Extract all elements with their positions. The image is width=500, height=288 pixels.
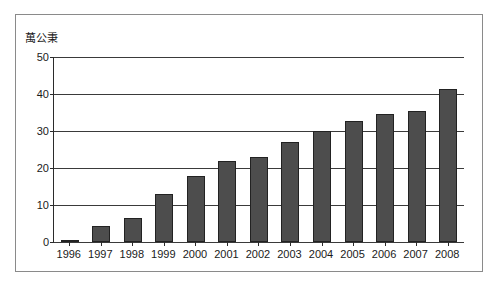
y-axis-tick-label: 40 [37,89,49,100]
y-axis-tick-label: 20 [37,163,49,174]
bar-slot [338,57,370,242]
x-axis-tick-label: 2007 [400,248,432,260]
bar-slot [432,57,464,242]
x-axis-tick-mark [322,242,323,246]
bar[interactable] [92,226,110,242]
bar[interactable] [439,89,457,242]
chart-frame: 萬公秉 01020304050 199619971998199920002001… [15,14,483,272]
y-axis-tick-label: 0 [43,237,49,248]
bar-slot [149,57,181,242]
bar[interactable] [218,161,236,242]
x-axis-tick-mark [416,242,417,246]
bar-slot [369,57,401,242]
x-axis-tick-label: 2006 [368,248,400,260]
bar-slot [243,57,275,242]
bar[interactable] [313,131,331,242]
bar[interactable] [124,218,142,242]
bar[interactable] [281,142,299,242]
x-axis-tick-label: 1997 [85,248,117,260]
x-axis-tick-mark [353,242,354,246]
x-axis-tick-mark [385,242,386,246]
x-axis-tick-label: 2002 [242,248,274,260]
bar-slot [401,57,433,242]
bar[interactable] [187,176,205,242]
y-axis-tick-label: 50 [37,52,49,63]
x-axis-tick-label: 2001 [211,248,243,260]
x-axis-tick-label: 1999 [148,248,180,260]
x-axis-tick-mark [164,242,165,246]
bars-layer [54,57,464,242]
bar[interactable] [250,157,268,242]
y-axis-title: 萬公秉 [25,29,58,45]
y-axis-tick-label: 30 [37,126,49,137]
x-axis-tick-mark [227,242,228,246]
bar[interactable] [155,194,173,242]
plot-area: 01020304050 [53,57,464,243]
bar[interactable] [376,114,394,242]
bar-slot [117,57,149,242]
x-axis-tick-mark [448,242,449,246]
bar[interactable] [345,121,363,242]
x-axis-tick-label: 1996 [53,248,85,260]
x-axis-labels: 1996199719981999200020012002200320042005… [53,248,463,260]
x-axis-tick-label: 2004 [305,248,337,260]
y-axis-tick-label: 10 [37,200,49,211]
x-axis-tick-label: 2000 [179,248,211,260]
x-axis-tick-mark [132,242,133,246]
x-axis-tick-mark [101,242,102,246]
y-axis-tick-mark [50,242,54,243]
x-axis-tick-label: 2005 [337,248,369,260]
x-axis-tick-mark [195,242,196,246]
bar-slot [86,57,118,242]
bar[interactable] [408,111,426,242]
x-axis-tick-label: 2003 [274,248,306,260]
bar-slot [275,57,307,242]
x-axis-tick-label: 2008 [431,248,463,260]
x-axis-tick-mark [290,242,291,246]
bar-slot [306,57,338,242]
bar-slot [54,57,86,242]
x-axis-tick-label: 1998 [116,248,148,260]
bar-slot [212,57,244,242]
x-axis-tick-mark [69,242,70,246]
bar-slot [180,57,212,242]
x-axis-tick-mark [258,242,259,246]
